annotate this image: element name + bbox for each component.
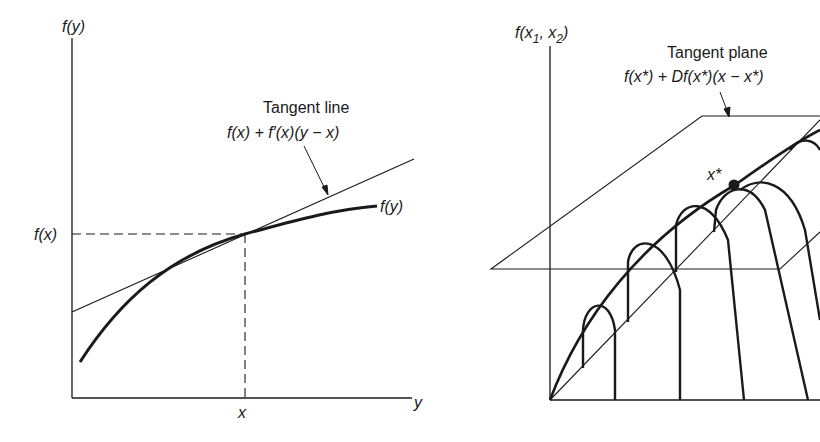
left-figure: [72, 38, 414, 398]
surface-arc-1: [583, 306, 615, 400]
x2-axis: [550, 120, 820, 400]
right-labels: f(x1, x2) Tangent plane f(x*) + Df(x*)(x…: [515, 24, 768, 183]
x-tick-label: x: [237, 404, 247, 421]
function-curve: [80, 206, 377, 362]
fx-tick-label: f(x): [34, 226, 57, 243]
surface-arc-4: [714, 189, 808, 400]
tangent-point-marker: [729, 180, 740, 191]
curve-label: f(y): [380, 198, 403, 215]
surface-arc-2: [628, 243, 680, 400]
tangent-plane-formula: f(x*) + Df(x*)(x − x*): [624, 68, 764, 85]
tangent-line-formula: f(x) + f′(x)(y − x): [227, 124, 339, 141]
surface-arc-3: [676, 206, 744, 400]
tangent-plane-title: Tangent plane: [667, 44, 768, 61]
arrowhead-icon: [322, 185, 328, 195]
left-labels: f(y) y x f(x) f(y) Tangent line f(x) + f…: [34, 18, 423, 421]
right-figure: [491, 46, 820, 400]
x-axis-label: y: [413, 394, 423, 411]
point-label: x*: [706, 166, 722, 183]
surface-profile: [550, 130, 820, 400]
tangent-line-title: Tangent line: [263, 99, 349, 116]
surface-arc-6: [790, 141, 820, 150]
z-axis-label: f(x1, x2): [515, 24, 568, 46]
y-axis-label: f(y): [62, 18, 85, 35]
surface-arc-5: [740, 183, 820, 320]
diagram-canvas: f(y) y x f(x) f(y) Tangent line f(x) + f…: [0, 0, 820, 442]
